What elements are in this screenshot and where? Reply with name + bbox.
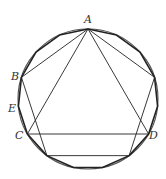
label-a: A (83, 13, 92, 26)
label-e: E (7, 102, 16, 115)
label-b: B (10, 70, 19, 83)
label-c: C (15, 129, 24, 142)
label-d: D (148, 129, 158, 142)
regular-15-gon (18, 29, 157, 167)
geometry-diagram: A B E C D (0, 0, 166, 179)
shapes-group (18, 29, 158, 169)
